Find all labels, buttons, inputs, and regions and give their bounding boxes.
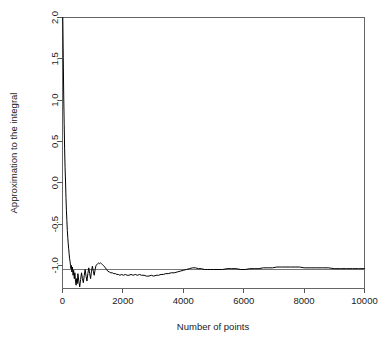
y-tick-label: 0.0 [49,176,60,189]
plot-canvas: 2.01.51.00.50.0-0.5-1.0 0200040006000800… [0,0,379,353]
x-tick-label: 2000 [112,295,133,306]
y-tick-label: 0.5 [49,135,60,148]
x-axis-title: Number of points [177,321,250,332]
chart-figure: 2.01.51.00.50.0-0.5-1.0 0200040006000800… [0,0,379,353]
y-tick-label: 1.0 [49,94,60,107]
y-axis-title: Approximation to the integral [8,93,19,214]
y-tick-label: 2.0 [49,11,60,24]
y-tick-label: 1.5 [49,52,60,65]
x-tick-label: 8000 [294,295,315,306]
x-tick-label: 6000 [233,295,254,306]
x-tick-label: 4000 [173,295,194,306]
x-tick-label: 0 [60,295,65,306]
y-tick-label: -1.0 [49,257,60,273]
x-tick-label: 10000 [351,295,377,306]
y-tick-label: -0.5 [49,216,60,232]
